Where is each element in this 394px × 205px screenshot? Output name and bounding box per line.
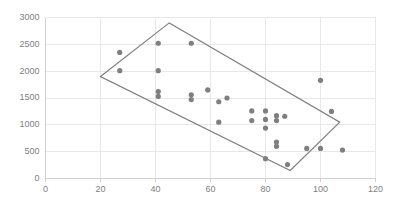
data-point [263, 108, 268, 113]
y-axis-tick-labels: 050010001500200025003000 [19, 12, 39, 183]
x-tick-label: 60 [205, 184, 215, 194]
data-point [249, 108, 254, 113]
x-tick-label: 40 [150, 184, 160, 194]
data-point [285, 162, 290, 167]
x-tick-label: 80 [260, 184, 270, 194]
y-tick-label: 0 [34, 173, 39, 183]
scatter-chart: 050010001500200025003000 020406080100120 [0, 0, 394, 205]
x-axis-tick-labels: 020406080100120 [43, 184, 383, 194]
data-point [304, 146, 309, 151]
data-point [216, 120, 221, 125]
data-point [329, 109, 334, 114]
data-point [340, 147, 345, 152]
chart-canvas: 050010001500200025003000 020406080100120 [0, 0, 394, 205]
data-point [216, 99, 221, 104]
data-point [318, 78, 323, 83]
data-point [263, 156, 268, 161]
y-tick-label: 500 [24, 146, 39, 156]
data-point [117, 68, 122, 73]
data-point [189, 41, 194, 46]
y-tick-label: 1500 [19, 92, 39, 102]
data-point [274, 113, 279, 118]
data-points [117, 41, 345, 167]
data-point [263, 125, 268, 130]
data-point [282, 114, 287, 119]
data-point [156, 89, 161, 94]
x-tick-label: 0 [43, 184, 48, 194]
data-point [318, 146, 323, 151]
x-tick-label: 20 [95, 184, 105, 194]
outline-polygon [101, 23, 340, 171]
data-point [274, 118, 279, 123]
data-point [156, 68, 161, 73]
data-point [224, 95, 229, 100]
data-point [274, 144, 279, 149]
data-point [117, 50, 122, 55]
data-point [249, 118, 254, 123]
data-point [205, 87, 210, 92]
data-point [156, 94, 161, 99]
y-tick-label: 3000 [19, 12, 39, 22]
data-point [263, 117, 268, 122]
y-tick-label: 2500 [19, 39, 39, 49]
y-tick-label: 2000 [19, 66, 39, 76]
tick-marks [46, 179, 376, 183]
convex-hull-outline [101, 23, 340, 171]
data-point [189, 92, 194, 97]
x-tick-label: 100 [313, 184, 328, 194]
data-point [156, 41, 161, 46]
y-tick-label: 1000 [19, 119, 39, 129]
x-tick-label: 120 [368, 184, 383, 194]
data-point [189, 97, 194, 102]
gridlines [46, 18, 376, 179]
